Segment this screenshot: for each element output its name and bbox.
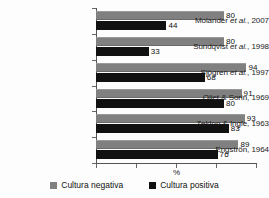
category-label: Zeldon & Ingle, 1963	[177, 119, 269, 129]
bar-value-label: 44	[166, 21, 177, 30]
category-label: Engströn, 1964	[177, 145, 269, 155]
chart-legend: Cultura negativaCultura positiva	[0, 180, 269, 190]
category-label: Sundqvist et al., 1998	[177, 42, 269, 52]
y-tick-6	[92, 163, 96, 164]
legend-label: Cultura positiva	[160, 180, 219, 190]
legend-swatch-icon	[50, 182, 57, 189]
legend-label: Cultura negativa	[61, 180, 123, 190]
bar-cultura-positiva	[96, 21, 166, 30]
bar-chart: 804480339468918093838976 Molander et al.…	[0, 0, 269, 198]
legend-item: Cultura negativa	[50, 180, 123, 190]
category-label: Oliet & Sorin, 1969	[177, 93, 269, 103]
legend-swatch-icon	[149, 182, 156, 189]
x-axis-title: %	[96, 168, 257, 177]
category-label: Sjögren et al., 1997	[177, 68, 269, 78]
category-label: Molander et al., 2007	[177, 16, 269, 26]
bar-cultura-positiva	[96, 47, 149, 56]
legend-item: Cultura positiva	[149, 180, 219, 190]
bar-value-label: 33	[149, 47, 160, 56]
